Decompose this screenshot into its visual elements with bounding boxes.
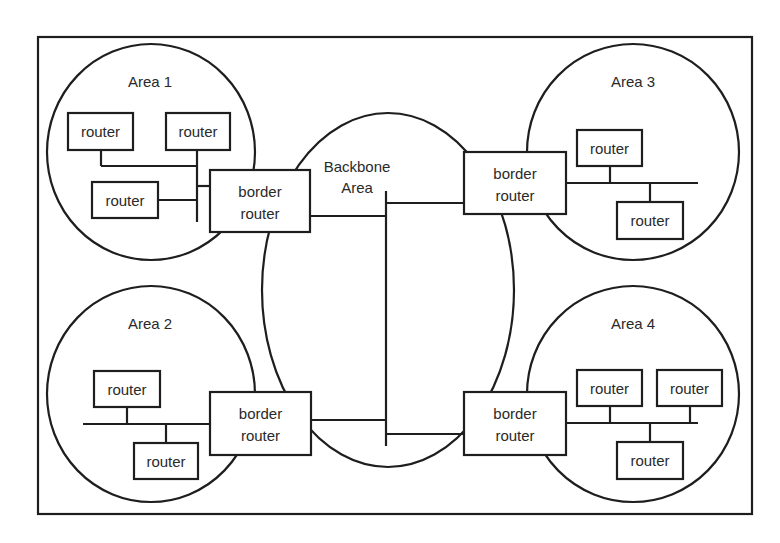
area-1-router-2[interactable]: router <box>166 113 230 150</box>
router-label: router <box>81 123 120 140</box>
border-router-label-line2: router <box>495 187 534 204</box>
router-label: router <box>630 452 669 469</box>
area-1-label: Area 1 <box>128 73 172 90</box>
router-label: router <box>670 380 709 397</box>
border-router-label-line2: router <box>240 205 279 222</box>
border-router-label-line2: router <box>241 427 280 444</box>
router-label: router <box>590 380 629 397</box>
area-2-router-2[interactable]: router <box>134 443 198 479</box>
network-diagram: Area 1 Area 2 Area 3 Area 4 Backbone Are… <box>0 0 780 543</box>
router-label: router <box>178 123 217 140</box>
backbone-label-line2: Area <box>341 179 373 196</box>
area-4-network <box>566 406 698 442</box>
area-3-border-router[interactable]: border router <box>464 152 566 214</box>
router-label: router <box>107 381 146 398</box>
area-4-router-2[interactable]: router <box>657 370 722 406</box>
area-2-network <box>83 407 210 443</box>
area-1-router-3[interactable]: router <box>92 182 158 218</box>
router-label: router <box>105 192 144 209</box>
backbone-label-line1: Backbone <box>324 158 391 175</box>
backbone-bus <box>310 191 464 446</box>
area-1-border-router[interactable]: border router <box>210 170 310 232</box>
area-2-label: Area 2 <box>128 315 172 332</box>
area-1-router-1[interactable]: router <box>68 113 133 150</box>
router-label: router <box>146 453 185 470</box>
area-3-network <box>566 166 698 202</box>
router-label: router <box>630 212 669 229</box>
border-router-label-line2: router <box>495 427 534 444</box>
area-2-router-1[interactable]: router <box>94 371 160 407</box>
area-3-router-2[interactable]: router <box>617 202 683 239</box>
border-router-label-line1: border <box>493 165 536 182</box>
area-4-border-router[interactable]: border router <box>464 392 566 455</box>
border-router-label-line1: border <box>239 405 282 422</box>
border-router-label-line1: border <box>238 183 281 200</box>
area-4-router-3[interactable]: router <box>617 442 683 479</box>
area-4-label: Area 4 <box>611 315 655 332</box>
border-router-label-line1: border <box>493 405 536 422</box>
area-3-router-1[interactable]: router <box>577 130 642 166</box>
area-2-border-router[interactable]: border router <box>210 392 311 455</box>
router-label: router <box>590 140 629 157</box>
area-3-label: Area 3 <box>611 73 655 90</box>
area-4-router-1[interactable]: router <box>577 370 642 406</box>
